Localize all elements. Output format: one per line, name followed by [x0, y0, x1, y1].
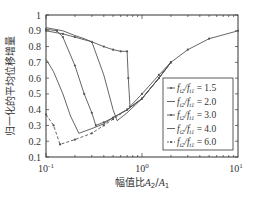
data-point [237, 30, 239, 32]
data-point [112, 118, 114, 120]
y-tick-label: 0.4 [29, 104, 42, 115]
legend-marker [170, 114, 172, 116]
data-point [45, 113, 47, 115]
data-point [74, 139, 76, 141]
data-point [62, 36, 64, 38]
series-line-2 [46, 29, 171, 125]
legend-marker [170, 141, 172, 143]
y-tick-label: 0.9 [29, 25, 42, 36]
y-tick-label: 0.8 [29, 41, 42, 52]
y-axis-title: 归一化的平均位移增量 [4, 36, 16, 136]
data-point [127, 77, 129, 79]
x-tick-label: 10-1 [38, 162, 54, 174]
data-point [103, 45, 105, 47]
data-point [158, 77, 160, 79]
data-point [74, 64, 76, 66]
data-point [56, 30, 58, 32]
x-axis-title: 幅值比A2/A1 [115, 176, 170, 190]
legend: ft2/ft1 = 1.5ft2/ft1 = 2.0ft2/ft1 = 3.0f… [163, 78, 233, 150]
data-point [103, 124, 105, 126]
x-tick-labels: 10-1 100 101 [38, 162, 243, 174]
y-tick-label: 0.5 [29, 88, 42, 99]
y-tick-label: 0.6 [29, 73, 42, 84]
data-point [158, 74, 160, 76]
data-point [126, 109, 128, 111]
data-point [62, 33, 64, 35]
y-tick-labels: 0.1 0.2 0.3 0.4 0.5 0.6 0.7 0.8 0.9 1 [29, 10, 42, 163]
data-point [83, 93, 85, 95]
y-tick-label: 0.7 [29, 57, 42, 68]
data-point [187, 49, 189, 51]
data-point [91, 132, 93, 134]
data-point [59, 143, 61, 145]
y-tick-label: 0.3 [29, 120, 42, 131]
y-tick-label: 0.1 [29, 152, 42, 163]
legend-marker [170, 87, 172, 89]
x-tick-label: 100 [135, 162, 149, 174]
data-point [120, 50, 122, 52]
data-point [141, 93, 143, 95]
chart-canvas: 0.1 0.2 0.3 0.4 0.5 0.6 0.7 0.8 0.9 1 10… [0, 0, 255, 203]
data-point [126, 50, 128, 52]
data-point [74, 36, 76, 38]
data-point [53, 124, 55, 126]
series-line-4 [46, 62, 171, 144]
data-point [91, 112, 93, 114]
x-tick-label: 101 [229, 162, 243, 174]
data-point [170, 61, 172, 63]
y-tick-label: 1 [36, 10, 41, 21]
data-point [95, 124, 97, 126]
data-point [112, 49, 114, 51]
data-point [45, 28, 47, 30]
y-tick-label: 0.2 [29, 136, 42, 147]
data-point [208, 38, 210, 40]
data-point [141, 98, 143, 100]
